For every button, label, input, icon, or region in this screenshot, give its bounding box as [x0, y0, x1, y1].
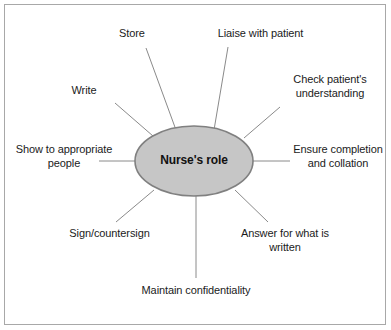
spoke-line-answer-for-what-is-written [235, 190, 268, 222]
center-node-label: Nurse's role [135, 153, 253, 167]
node-label-answer-for-what-is-written: Answer for what is written [232, 227, 338, 254]
spoke-line-liaise-with-patient [214, 47, 228, 130]
spoke-line-store [146, 48, 176, 130]
spoke-line-sign-countersign [116, 190, 154, 222]
spoke-line-check-patients-understanding [244, 107, 280, 138]
node-label-store: Store [104, 27, 160, 41]
node-label-check-patients-understanding: Check patient's understanding [280, 73, 380, 100]
diagram-figure: Nurse's role StoreLiaise with patientChe… [0, 0, 391, 330]
node-label-show-to-appropriate-people: Show to appropriate people [9, 143, 119, 170]
node-label-sign-countersign: Sign/countersign [57, 227, 162, 241]
node-label-ensure-completion-and-collation: Ensure completion and collation [288, 143, 388, 170]
node-label-liaise-with-patient: Liaise with patient [203, 27, 318, 41]
spoke-line-write [115, 103, 153, 136]
node-label-write: Write [58, 84, 110, 98]
node-label-maintain-confidentiality: Maintain confidentiality [126, 284, 266, 298]
